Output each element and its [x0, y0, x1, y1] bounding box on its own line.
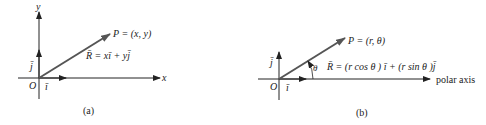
x-axis-label: x: [162, 73, 166, 83]
vector-r-label: R̄ = xī + yj̄: [86, 51, 130, 61]
caption-a: (a): [83, 106, 94, 116]
y-axis-label: y: [36, 2, 40, 12]
point-p-label: P = (x, y): [113, 29, 151, 39]
vector-r-label: R̄ = (r cos θ ) ī + (r sin θ )j̄: [327, 62, 436, 72]
unit-i-label: ī: [286, 83, 289, 93]
unit-i-label: ī: [45, 82, 48, 92]
unit-j-label: j̄: [270, 58, 273, 68]
point-p-label: P = (r, θ): [348, 36, 385, 46]
position-vector-r: [279, 38, 345, 79]
origin-label: O: [270, 82, 277, 92]
unit-j-label: j̄: [30, 62, 33, 72]
angle-theta-label: θ: [313, 64, 317, 73]
caption-b: (b): [356, 108, 368, 118]
origin-label: O: [29, 81, 36, 91]
polar-axis-label: polar axis: [436, 75, 475, 85]
